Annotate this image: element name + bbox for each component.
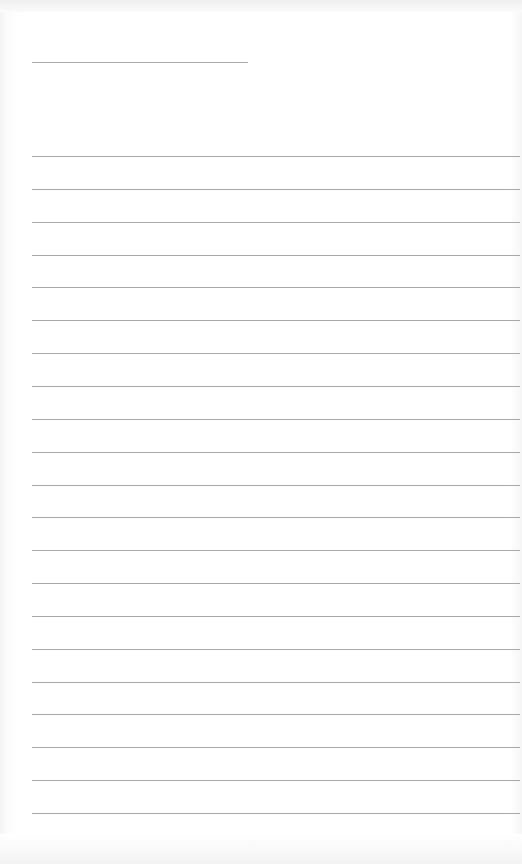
ruled-line — [32, 222, 520, 223]
page-top-edge — [0, 0, 522, 12]
ruled-line — [32, 320, 520, 321]
ruled-line — [32, 485, 520, 486]
ruled-line — [32, 517, 520, 518]
ruled-line — [32, 813, 520, 814]
ruled-line — [32, 255, 520, 256]
ruled-line — [32, 452, 520, 453]
lined-paper-page — [0, 0, 522, 864]
ruled-line — [32, 353, 520, 354]
ruled-line — [32, 419, 520, 420]
ruled-line — [32, 649, 520, 650]
header-underline — [32, 62, 248, 63]
ruled-line — [32, 682, 520, 683]
ruled-line — [32, 616, 520, 617]
ruled-line — [32, 156, 520, 157]
ruled-line — [32, 287, 520, 288]
ruled-line — [32, 747, 520, 748]
ruled-line — [32, 550, 520, 551]
ruled-line — [32, 189, 520, 190]
ruled-line — [32, 583, 520, 584]
ruled-line — [32, 780, 520, 781]
page-bottom-edge — [0, 834, 522, 864]
ruled-line — [32, 386, 520, 387]
ruled-line — [32, 714, 520, 715]
